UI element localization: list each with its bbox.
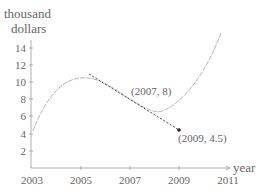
y-tick-label: 2 [21, 145, 27, 157]
point-label-2007: (2007, 8) [131, 85, 172, 98]
x-tick-label: 2011 [217, 174, 239, 186]
tangent-line [89, 74, 179, 130]
x-axis-title: year [233, 160, 256, 175]
y-tick-label: 14 [15, 42, 27, 54]
y-tick-labels: 2 4 6 8 10 12 14 [15, 42, 27, 157]
x-tick-labels: 2003 2005 2007 2009 2011 [21, 174, 239, 186]
curve-line [33, 33, 221, 131]
point-label-2009: (2009, 4.5) [178, 132, 227, 145]
chart: thousand dollars 2 4 6 8 10 12 14 2003 2… [0, 0, 261, 194]
y-tick-label: 6 [21, 110, 27, 122]
x-tick-label: 2007 [119, 174, 142, 186]
x-tick-label: 2003 [21, 174, 44, 186]
y-axis-title-line1: thousand [4, 6, 51, 21]
y-tick-label: 4 [21, 128, 27, 140]
y-tick-label: 10 [15, 76, 27, 88]
x-tick-label: 2005 [70, 174, 93, 186]
axes [29, 40, 230, 170]
y-tick-label: 8 [21, 93, 27, 105]
y-tick-label: 12 [15, 59, 26, 71]
y-axis-title-line2: dollars [11, 21, 46, 36]
x-tick-label: 2009 [168, 174, 191, 186]
